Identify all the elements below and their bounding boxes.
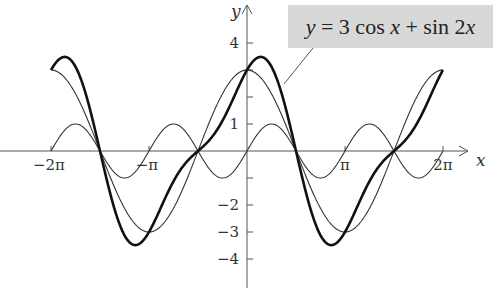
y-axis-label: y (230, 1, 241, 21)
formula-plus: + sin 2 (400, 14, 466, 40)
x-tick-label: 2π (433, 156, 453, 174)
x-tick-label: −2π (33, 156, 65, 174)
callout-leader-line (284, 48, 313, 84)
y-tick-label: −4 (217, 250, 239, 268)
x-axis-label: x (476, 150, 486, 170)
formula-callout: y = 3 cos x + sin 2 x (288, 5, 493, 48)
y-tick-label: 4 (229, 34, 239, 52)
x-tick-label: π (340, 156, 350, 174)
x-tick-label: −π (136, 156, 159, 174)
formula-mid: = 3 cos (315, 14, 390, 40)
y-tick-label: 1 (229, 115, 239, 133)
formula-y: y (306, 14, 316, 40)
formula-x: x (390, 14, 400, 40)
formula-x2: x (466, 14, 476, 40)
y-tick-label: −3 (217, 223, 239, 241)
y-tick-label: −2 (217, 196, 239, 214)
